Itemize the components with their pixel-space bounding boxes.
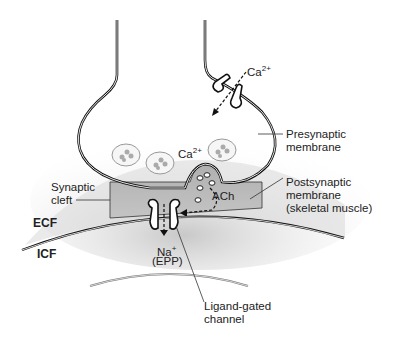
muscle-fiber-inner-membrane xyxy=(90,274,248,286)
ligand-gated-channel-label: Ligand-gated channel xyxy=(204,300,271,326)
vesicle xyxy=(208,139,236,161)
vesicle xyxy=(146,152,174,174)
ecf-label: ECF xyxy=(33,217,57,230)
presynaptic-membrane-label: Presynaptic membrane xyxy=(286,128,346,154)
postsynaptic-membrane-label: Postsynaptic membrane (skeletal muscle) xyxy=(286,176,372,215)
neuromuscular-junction-diagram xyxy=(0,0,398,339)
ach-label: ACh xyxy=(212,190,234,203)
ca-outside-label: Ca2+ xyxy=(247,62,271,79)
ca-inside-label: Ca2+ xyxy=(178,144,202,161)
synaptic-cleft-label: Synaptic cleft xyxy=(51,181,95,207)
vesicle xyxy=(112,144,140,166)
epp-label: (EPP) xyxy=(152,255,183,268)
icf-label: ICF xyxy=(37,248,56,261)
